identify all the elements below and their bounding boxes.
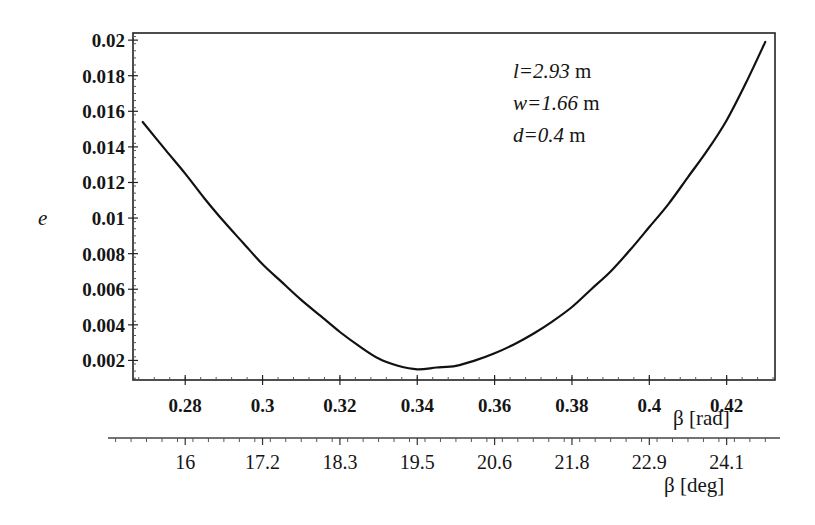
secondary-x-axis-deg: 1617.218.319.520.621.822.924.1 bbox=[108, 438, 780, 473]
deg-tick-label: 16 bbox=[175, 451, 195, 473]
parameter-annotation: l=2.93 m w=1.66 m d=0.4 m bbox=[513, 59, 600, 147]
y-tick-label: 0.002 bbox=[82, 350, 125, 371]
annotation-depth: d=0.4 m bbox=[513, 123, 586, 147]
y-tick-label: 0.01 bbox=[92, 208, 125, 229]
deg-tick-label: 18.3 bbox=[322, 451, 357, 473]
plot-frame bbox=[133, 33, 775, 380]
y-tick-label: 0.016 bbox=[82, 101, 125, 122]
data-curve bbox=[143, 42, 766, 369]
deg-tick-label: 20.6 bbox=[477, 451, 512, 473]
y-tick-label: 0.014 bbox=[82, 137, 125, 158]
y-tick-label: 0.004 bbox=[82, 315, 125, 336]
x-axis-label-rad: β [rad] bbox=[673, 406, 730, 430]
y-tick-label: 0.006 bbox=[82, 279, 125, 300]
y-axis-label: e bbox=[38, 206, 47, 230]
deg-tick-label: 22.9 bbox=[632, 451, 667, 473]
deg-tick-label: 21.8 bbox=[554, 451, 589, 473]
annotation-width: w=1.66 m bbox=[513, 91, 600, 115]
x-tick-label: 0.34 bbox=[401, 395, 435, 416]
y-axis-ticks: 0.0020.0040.0060.0080.010.0120.0140.0160… bbox=[82, 30, 138, 378]
x-tick-label: 0.38 bbox=[555, 395, 588, 416]
chart: 0.0020.0040.0060.0080.010.0120.0140.0160… bbox=[0, 0, 815, 525]
x-tick-label: 0.28 bbox=[169, 395, 202, 416]
y-tick-label: 0.012 bbox=[82, 172, 125, 193]
y-tick-label: 0.008 bbox=[82, 244, 125, 265]
deg-tick-label: 19.5 bbox=[400, 451, 435, 473]
y-tick-label: 0.02 bbox=[92, 30, 125, 51]
deg-tick-label: 17.2 bbox=[245, 451, 280, 473]
y-tick-label: 0.018 bbox=[82, 66, 125, 87]
annotation-length: l=2.93 m bbox=[513, 59, 591, 83]
x-tick-label: 0.32 bbox=[323, 395, 356, 416]
x-axis-label-deg: β [deg] bbox=[664, 473, 724, 497]
x-tick-label: 0.3 bbox=[251, 395, 275, 416]
x-tick-label: 0.4 bbox=[637, 395, 661, 416]
deg-tick-label: 24.1 bbox=[709, 451, 744, 473]
plot-border bbox=[133, 33, 775, 380]
x-tick-label: 0.36 bbox=[478, 395, 511, 416]
